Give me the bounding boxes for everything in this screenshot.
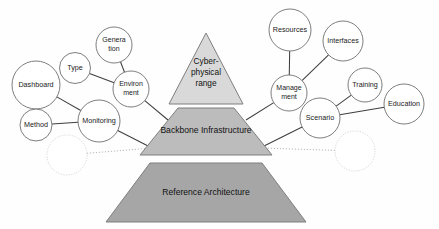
link-interfaces-management <box>302 55 329 81</box>
node-generation[interactable]: Generation <box>96 27 132 63</box>
node-management[interactable]: Management <box>271 75 307 111</box>
node-education[interactable]: Education <box>384 84 424 124</box>
node-generation-label: Genera <box>102 36 125 43</box>
node-dashboard[interactable]: Dashboard <box>12 61 60 109</box>
node-monitoring-label: Monitoring <box>82 116 116 125</box>
node-ghost-right[interactable] <box>335 131 375 171</box>
link-type-environment <box>90 73 115 82</box>
node-ghost-left[interactable] <box>47 135 87 175</box>
link-ghostright-backbone <box>260 148 335 150</box>
node-environment[interactable]: Environment <box>113 71 149 107</box>
node-environment-label: ment <box>123 89 139 96</box>
link-scenario-backbone <box>260 127 302 148</box>
node-education-label: Education <box>388 99 420 108</box>
node-interfaces[interactable]: Interfaces <box>323 21 363 61</box>
apex-text-line: range <box>195 78 217 88</box>
diagram-canvas: Cyber-physicalrange Backbone Infrastruct… <box>0 0 439 229</box>
node-type-label: Type <box>67 63 83 72</box>
apex-text-line: Cyber- <box>194 56 219 66</box>
node-ghost-right-circle[interactable] <box>335 131 375 171</box>
node-ghost-left-circle[interactable] <box>47 135 87 175</box>
base-text-line: Reference Architecture <box>162 187 250 197</box>
link-generation-environment <box>120 62 124 72</box>
node-scenario-label: Scenario <box>306 113 334 122</box>
node-method-label: Method <box>24 120 48 129</box>
middle-text-line: Backbone Infrastructure <box>160 125 251 135</box>
node-environment-label: Environ <box>119 80 143 87</box>
apex-text-line: physical <box>191 67 221 77</box>
link-dashboard-monitoring <box>57 97 81 111</box>
backbone-infrastructure-label: Backbone Infrastructure <box>160 125 251 135</box>
node-type[interactable]: Type <box>60 53 91 84</box>
cyber-physical-range-label: Cyber-physicalrange <box>191 56 221 88</box>
node-training[interactable]: Training <box>348 68 382 102</box>
node-method[interactable]: Method <box>20 109 52 141</box>
link-monitoring-backbone <box>118 131 152 148</box>
node-generation-label: tion <box>108 45 119 52</box>
node-management-label: Manage <box>276 84 301 92</box>
link-environment-backbone <box>145 101 168 120</box>
reference-architecture-label: Reference Architecture <box>162 187 250 197</box>
link-method-monitoring <box>52 122 78 124</box>
node-resources[interactable]: Resources <box>269 9 311 51</box>
node-training-label: Training <box>352 80 378 89</box>
node-dashboard-label: Dashboard <box>18 80 53 89</box>
node-scenario[interactable]: Scenario <box>300 98 340 138</box>
link-education-scenario <box>340 107 385 114</box>
node-management-label: ment <box>281 93 297 100</box>
node-interfaces-label: Interfaces <box>327 36 359 45</box>
cyber-physical-range-diagram: Cyber-physicalrange Backbone Infrastruct… <box>0 0 439 229</box>
link-management-backbone <box>246 103 274 120</box>
node-resources-label: Resources <box>273 25 308 34</box>
link-training-scenario <box>336 95 351 106</box>
node-monitoring[interactable]: Monitoring <box>78 100 120 142</box>
